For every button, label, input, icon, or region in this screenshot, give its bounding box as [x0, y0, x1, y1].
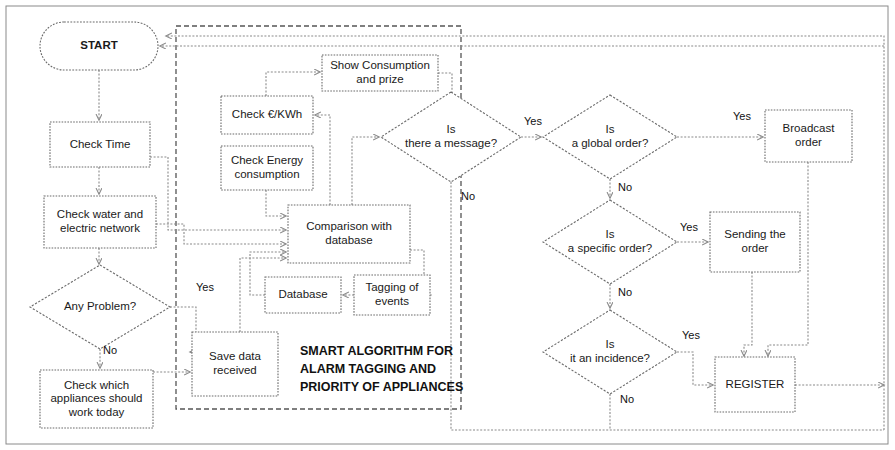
node-label-register: REGISTER [726, 378, 785, 390]
node-label-broadcast: Broadcast [783, 122, 836, 134]
node-sending[interactable]: Sending theorder [710, 212, 800, 272]
lbl-message-yes: Yes [524, 115, 542, 127]
edge-is-message-no [451, 182, 884, 430]
node-label-sending: order [742, 242, 769, 254]
node-check_water[interactable]: Check water andelectric network [44, 196, 156, 248]
flowchart-canvas: STARTCheck TimeCheck water andelectric n… [0, 0, 895, 450]
lbl-specific-no: No [618, 286, 632, 298]
lbl-global-yes: Yes [733, 110, 751, 122]
node-start[interactable]: START [40, 22, 158, 70]
node-register[interactable]: REGISTER [715, 357, 795, 412]
node-label-is_global: Is [606, 123, 615, 135]
lbl-incidence-no: No [620, 393, 634, 405]
node-check_which[interactable]: Check whichappliances shouldwork today [40, 370, 153, 428]
node-is_incidence[interactable]: Isit an incidence? [543, 310, 677, 394]
lbl-any-problem-yes: Yes [196, 281, 214, 293]
edge-sending-to-register [744, 272, 752, 356]
node-label-sending: Sending the [724, 228, 785, 240]
algorithm-title-block: SMART ALGORITHM FORALARM TAGGING ANDPRIO… [300, 344, 463, 394]
node-label-save_data: received [213, 364, 256, 376]
node-check_kwh[interactable]: Check €/KWh [221, 96, 313, 134]
node-comparison[interactable]: Comparison withdatabase [288, 205, 410, 263]
node-label-show_consumption: Show Consumption [330, 59, 430, 71]
node-label-check_energy: Check Energy [231, 154, 303, 166]
edge-comparison-to-check-kwh [315, 115, 330, 205]
flowchart-svg: STARTCheck TimeCheck water andelectric n… [0, 0, 895, 450]
node-label-is_message: there a message? [405, 137, 497, 149]
node-label-database: Database [278, 288, 327, 300]
node-label-is_specific: a specific order? [568, 242, 652, 254]
node-label-check_water: electric network [60, 222, 140, 234]
node-label-is_incidence: Is [606, 338, 615, 350]
edge-show-consumption-to-is-message [438, 73, 452, 95]
node-label-any_problem: Any Problem? [64, 300, 136, 312]
node-database[interactable]: Database [265, 277, 341, 313]
node-label-check_which: appliances should [50, 392, 142, 404]
edge-check-kwh-to-show-consumption [266, 72, 320, 96]
node-label-broadcast: order [795, 136, 822, 148]
node-any_problem[interactable]: Any Problem? [30, 265, 170, 349]
node-label-tagging: events [375, 295, 409, 307]
node-label-save_data: Save data [209, 350, 261, 362]
lbl-incidence-yes: Yes [682, 329, 700, 341]
node-label-check_water: Check water and [57, 208, 143, 220]
node-check_time[interactable]: Check Time [50, 122, 150, 167]
node-label-tagging: Tagging of [365, 281, 419, 293]
node-label-check_which: work today [68, 406, 125, 418]
algorithm-title-line: ALARM TAGGING AND [300, 362, 436, 376]
node-label-is_message: Is [447, 123, 456, 135]
node-check_energy[interactable]: Check Energyconsumption [221, 146, 313, 190]
node-is_global[interactable]: Isa global order? [543, 95, 677, 179]
node-label-start: START [80, 39, 117, 51]
edge-comparison-to-is-message [352, 137, 379, 205]
node-is_message[interactable]: Isthere a message? [381, 92, 521, 182]
edge-is-incidence-yes-to-register [677, 352, 713, 385]
algorithm-title-line: SMART ALGORITHM FOR [300, 344, 453, 358]
node-tagging[interactable]: Tagging ofevents [354, 275, 430, 315]
node-save_data[interactable]: Save datareceived [192, 332, 278, 396]
node-label-check_which: Check which [64, 379, 129, 391]
node-layer: STARTCheck TimeCheck water andelectric n… [30, 22, 852, 428]
node-label-check_kwh: Check €/KWh [232, 108, 302, 120]
lbl-global-no: No [618, 181, 632, 193]
node-label-is_specific: Is [606, 228, 615, 240]
node-label-is_incidence: it an incidence? [570, 352, 650, 364]
node-show_consumption[interactable]: Show Consumptionand prize [322, 55, 438, 91]
node-label-comparison: database [325, 234, 372, 246]
node-label-comparison: Comparison with [306, 220, 392, 232]
node-broadcast[interactable]: Broadcastorder [765, 110, 852, 162]
node-label-check_time: Check Time [70, 138, 131, 150]
algorithm-title-line: PRIORITY OF APPLIANCES [300, 380, 463, 394]
node-label-check_energy: consumption [234, 168, 299, 180]
node-label-is_global: a global order? [572, 137, 649, 149]
lbl-message-no: No [461, 190, 475, 202]
lbl-specific-yes: Yes [680, 221, 698, 233]
edge-check-energy-to-comparison [266, 190, 286, 216]
lbl-any-problem-no: No [103, 344, 117, 356]
node-label-show_consumption: and prize [356, 73, 403, 85]
node-is_specific[interactable]: Isa specific order? [543, 200, 677, 284]
